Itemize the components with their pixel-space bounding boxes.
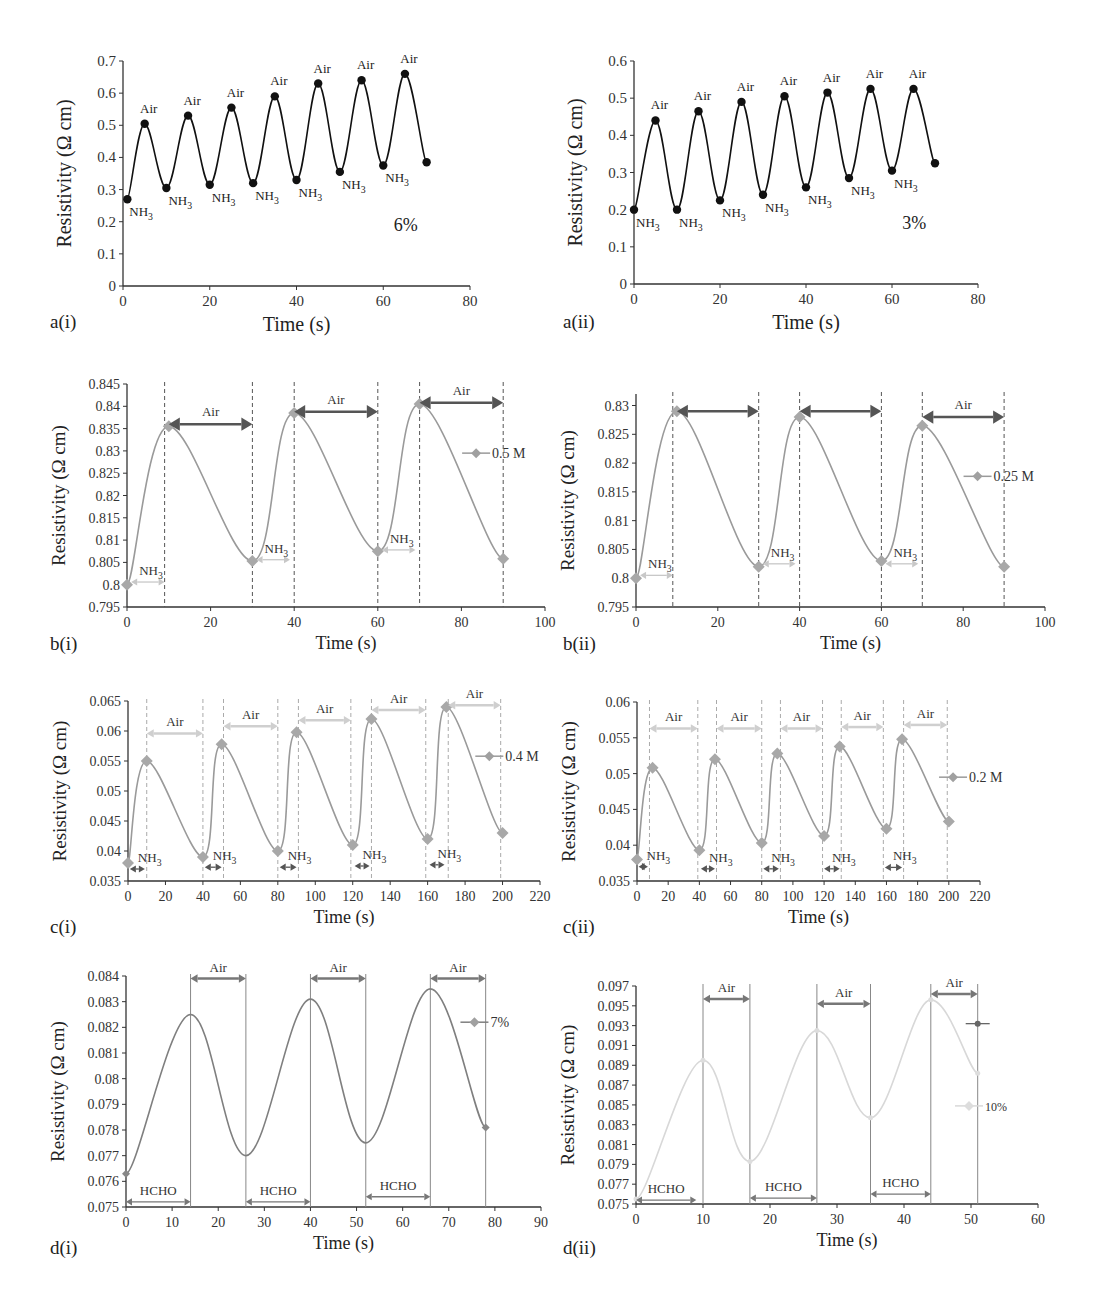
x-tick-label: 20 [204,615,218,630]
point-label: Air [651,97,669,112]
x-tick-label: 40 [287,615,301,630]
chart-a-i: 00.10.20.30.40.50.60.7020406080Time (s)R… [50,51,478,336]
panel-label: d(i) [50,1237,77,1259]
x-tick-label: 220 [530,889,551,904]
air-label: Air [917,706,935,721]
y-tick-label: 0.075 [598,1197,630,1212]
legend-label: 0.4 M [505,749,539,764]
air-exposure-arrow-head-left [677,405,688,418]
point-label: NH3 [893,545,917,563]
y-tick-label: 0.815 [89,511,121,526]
data-point [401,70,409,78]
x-tick-label: 80 [454,615,468,630]
gas-exposure-arrow-head-left [355,862,361,869]
x-tick-label: 120 [342,889,363,904]
x-tick-label: 100 [1035,615,1056,630]
x-tick-label: 80 [463,293,478,309]
air-label: Air [854,708,872,723]
air-exposure-arrow-head-left [430,974,437,982]
x-tick-label: 40 [303,1215,317,1230]
point-label: Air [314,61,332,76]
air-label: Air [835,985,853,1000]
x-axis-label: Time (s) [316,633,377,654]
point-label: NH3 [168,193,192,211]
legend-marker [469,1017,479,1027]
data-point [780,92,788,100]
y-tick-label: 0.089 [598,1058,630,1073]
x-axis-label: Time (s) [788,907,849,928]
point-label: Air [140,101,158,116]
air-exposure-arrow-head-left [717,724,724,732]
legend-marker [964,1101,974,1111]
y-tick-label: 0.05 [606,767,631,782]
y-tick-label: 0.06 [606,695,631,710]
gas-exposure-arrow-head-left [205,864,211,871]
y-tick-label: 0.4 [97,149,116,165]
air-exposure-arrow-head-right [971,990,978,998]
x-tick-label: 0 [630,291,638,307]
data-series-line [634,89,935,210]
air-exposure-arrow-head-left [310,974,317,982]
air-exposure-arrow-head-left [649,724,656,732]
panel-label: a(ii) [563,311,595,333]
x-axis-label: Time (s) [313,1233,374,1254]
gas-exposure-arrow-head-left [246,1198,252,1205]
x-tick-label: 200 [938,889,959,904]
gas-exposure-arrow-head-right [438,861,444,868]
point-label: HCHO [140,1183,177,1198]
air-label: Air [466,686,484,701]
gas-exposure-arrow-head-right [834,865,840,872]
air-exposure-arrow-head-right [870,405,881,418]
x-tick-label: 0 [124,615,131,630]
data-point [975,1071,980,1076]
gas-exposure-arrow-head-left [126,1198,132,1205]
air-exposure-arrow-head-left [371,706,378,714]
y-tick-label: 0.805 [89,555,121,570]
data-series-line [127,74,426,199]
x-tick-label: 50 [350,1215,364,1230]
data-point [314,79,322,87]
point-label: NH3 [138,850,162,868]
data-point [737,98,745,106]
data-point [122,857,134,869]
chart-b-ii: 0.7950.80.8050.810.8150.820.8250.8302040… [557,392,1056,655]
y-tick-label: 0.075 [88,1200,120,1215]
y-tick-label: 0.83 [96,444,121,459]
y-tick-label: 0.835 [89,422,121,437]
data-point [998,561,1010,573]
point-label: Air [357,57,375,72]
panel-label: c(i) [50,916,76,938]
data-point [753,561,765,573]
data-point [497,553,509,565]
x-tick-label: 120 [814,889,835,904]
gas-exposure-arrow-head-right [139,865,145,872]
y-tick-label: 0.84 [96,399,121,414]
x-tick-label: 60 [885,291,900,307]
y-tick-label: 0.083 [598,1118,630,1133]
gas-exposure-arrow-head-right [304,1198,310,1205]
air-exposure-arrow-head-right [876,723,883,731]
x-tick-label: 180 [907,889,928,904]
data-point [292,176,300,184]
x-tick-label: 50 [964,1212,978,1227]
x-axis-label: Time (s) [772,311,840,334]
panel-label: b(i) [50,633,77,655]
legend-label: 10% [985,1100,1007,1114]
y-axis-label: Resistivity (Ω cm) [48,425,70,566]
air-exposure-arrow-head-right [239,974,246,982]
point-label: HCHO [380,1178,417,1193]
data-point [372,545,384,557]
air-label: Air [730,709,748,724]
y-tick-label: 0.055 [90,754,122,769]
y-tick-label: 0.084 [88,969,120,984]
y-tick-label: 0.085 [598,1098,630,1113]
y-tick-label: 0.045 [599,802,631,817]
legend-label: 0.2 M [969,770,1003,785]
gas-exposure-arrow-head-left [763,865,769,872]
air-label: Air [202,404,220,419]
air-exposure-arrow-head-right [864,1000,871,1008]
data-point [651,116,659,124]
air-exposure-arrow-head-right [755,724,762,732]
data-point [673,205,681,213]
gas-exposure-arrow-head-right [709,865,715,872]
